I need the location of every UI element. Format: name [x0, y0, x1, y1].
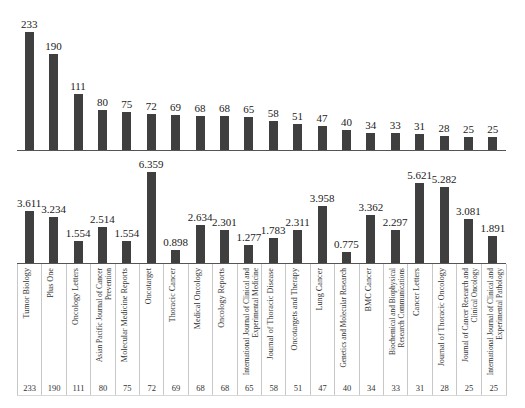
bar	[74, 241, 83, 263]
journal-count: 80	[91, 383, 114, 393]
bar	[98, 227, 107, 263]
table-column: Oncology Letters111	[67, 264, 91, 395]
journal-count: 58	[262, 383, 285, 393]
journal-count: 68	[189, 383, 212, 393]
bar	[98, 110, 107, 150]
bar	[318, 126, 327, 150]
bar	[366, 215, 375, 263]
journal-name: Cancer Letters	[412, 268, 421, 376]
journal-count: 65	[238, 383, 261, 393]
bar	[244, 117, 253, 150]
journal-name: Plus One	[46, 268, 55, 376]
journal-count: 47	[311, 383, 334, 393]
bar	[122, 112, 131, 150]
bar	[440, 136, 449, 150]
journal-count: 75	[116, 383, 139, 393]
bar	[415, 183, 424, 263]
bar	[147, 172, 156, 263]
table-column: Molecular Medicine Reports75	[116, 264, 140, 395]
journal-name: Asian Pacific Journal of Cancer Preventi…	[95, 268, 113, 376]
bar	[244, 245, 253, 263]
journal-label-table: Tumor Biology233Plus One190Oncology Lett…	[17, 264, 507, 396]
bar-value-label: 0.898	[156, 236, 196, 248]
table-column: International Journal of Clinical and Ex…	[482, 264, 506, 395]
journal-name: Lung Cancer	[315, 268, 324, 376]
journal-name: Oncotargets and Therapy	[290, 268, 299, 376]
journal-name: Journal of Thoracic Oncology	[437, 268, 446, 376]
table-column: Journal of Thoracic Disease58	[262, 264, 286, 395]
journal-name: Oncology Letters	[71, 268, 80, 376]
bar	[49, 217, 58, 263]
bar	[196, 116, 205, 150]
bar	[25, 32, 34, 150]
bar	[391, 230, 400, 263]
bar-value-label: 3.081	[448, 205, 488, 217]
bar	[74, 94, 83, 150]
journal-name: Thoracic Cancer	[168, 268, 177, 376]
bar	[269, 121, 278, 150]
bar	[293, 230, 302, 263]
bar	[171, 115, 180, 150]
bar	[220, 230, 229, 263]
bar	[342, 252, 351, 263]
bar-value-label: 2.311	[278, 216, 318, 228]
journal-name: International Journal of Clinical and Ex…	[242, 268, 260, 376]
journal-count: 33	[384, 383, 407, 393]
journal-name: Genetics and Molecular Research	[339, 268, 348, 376]
top-chart-baseline	[17, 150, 506, 151]
bar	[171, 250, 180, 263]
bar-value-label: 3.958	[302, 192, 342, 204]
bar	[366, 133, 375, 150]
bar	[318, 206, 327, 263]
journal-count: 31	[408, 383, 431, 393]
table-column: Thoracic Cancer69	[164, 264, 188, 395]
table-column: Journal of Cancer Research and Clinical …	[457, 264, 481, 395]
journal-count: 72	[140, 383, 163, 393]
table-column: Asian Pacific Journal of Cancer Preventi…	[91, 264, 115, 395]
bar	[391, 133, 400, 150]
journal-name: Molecular Medicine Reports	[120, 268, 129, 376]
journal-name: BMC Cancer	[364, 268, 373, 376]
bar-value-label: 1.554	[107, 227, 147, 239]
bar	[196, 225, 205, 263]
bar	[122, 241, 131, 263]
journal-count: 25	[457, 383, 480, 393]
journal-count: 233	[18, 383, 41, 393]
bar	[464, 219, 473, 263]
bar	[147, 114, 156, 150]
journal-name: Tumor Biology	[22, 268, 31, 376]
table-column: Cancer Letters31	[408, 264, 432, 395]
bar	[488, 236, 497, 263]
bar-value-label: 5.282	[424, 173, 464, 185]
table-column: Oncotarget72	[140, 264, 164, 395]
table-column: Oncology Reports68	[213, 264, 237, 395]
table-column: Plus One190	[42, 264, 66, 395]
bar	[342, 130, 351, 150]
bar-value-label: 1.554	[58, 227, 98, 239]
bar	[488, 137, 497, 150]
table-column: Oncotargets and Therapy51	[286, 264, 310, 395]
journal-count: 190	[42, 383, 65, 393]
journal-chart: 2331901118075726968686558514740343331282…	[0, 0, 525, 408]
journal-count: 28	[433, 383, 456, 393]
journal-count: 34	[360, 383, 383, 393]
table-column: Tumor Biology233	[18, 264, 42, 395]
bar	[220, 116, 229, 150]
bar-value-label: 111	[58, 80, 98, 92]
bar	[25, 211, 34, 263]
table-column: BMC Cancer34	[360, 264, 384, 395]
bar	[293, 124, 302, 150]
journal-name: Medical Oncology	[193, 268, 202, 376]
table-column: Journal of Thoracic Oncology28	[433, 264, 457, 395]
bar-value-label: 3.362	[351, 201, 391, 213]
journal-count: 111	[67, 383, 90, 393]
table-column: Medical Oncology68	[189, 264, 213, 395]
bar-value-label: 25	[473, 123, 513, 135]
bar-value-label: 190	[34, 40, 74, 52]
journal-name: Journal of Cancer Research and Clinical …	[461, 268, 479, 376]
table-column: Biochemical and Biophysical Research Com…	[384, 264, 408, 395]
journal-name: Journal of Thoracic Disease	[266, 268, 275, 376]
journal-name: Oncology Reports	[217, 268, 226, 376]
bar	[464, 137, 473, 150]
bar-value-label: 6.359	[131, 158, 171, 170]
